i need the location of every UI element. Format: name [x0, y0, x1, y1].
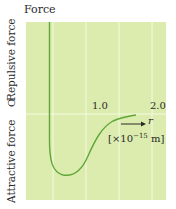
x-tick-1: 1.0 — [92, 100, 108, 111]
r-axis-label: r — [148, 115, 153, 126]
origin-label: O — [6, 99, 17, 107]
y-label-repulsive: Repulsive force — [5, 18, 17, 101]
unit-suffix: m] — [148, 133, 165, 144]
unit-prefix: [×10 — [108, 133, 133, 144]
y-label-attractive: Attractive force — [5, 120, 17, 203]
x-tick-2: 2.0 — [150, 100, 166, 111]
unit-exponent: −15 — [133, 132, 148, 140]
plot-background — [26, 22, 166, 200]
unit-label: [×10−15 m] — [108, 132, 164, 144]
